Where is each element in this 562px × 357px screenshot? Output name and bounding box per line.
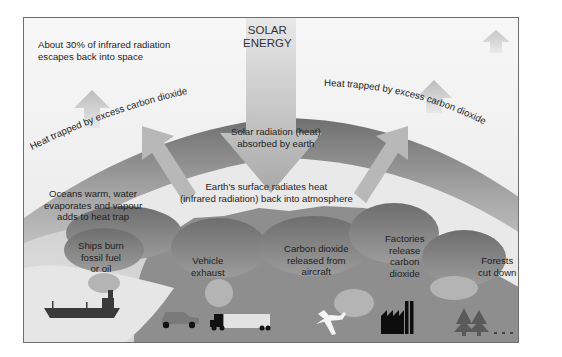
factories-line-4: dioxide <box>385 268 424 280</box>
oceans-label: Oceans warm, water evaporates and vapour… <box>44 188 142 223</box>
absorbed-label: Solar radiation (heat) absorbed by earth <box>231 126 321 149</box>
factories-line-2: release <box>385 245 424 257</box>
solar-title-line-1: SOLAR <box>243 24 292 37</box>
radiates-label: Earth's surface radiates heat (infrared … <box>180 181 353 204</box>
escape-note: About 30% of infrared radiation escapes … <box>38 39 170 62</box>
vehicles-line-2: exhaust <box>191 267 225 279</box>
solar-energy-title: SOLAR ENERGY <box>243 24 292 50</box>
forests-line-2: cut down <box>478 267 516 279</box>
aircraft-line-1: Carbon dioxide <box>284 243 349 255</box>
forests-line-1: Forests <box>478 255 516 267</box>
source-ships-label: Ships burn fossil fuel or oil <box>78 240 124 275</box>
source-factories-label: Factories release carbon dioxide <box>385 233 424 279</box>
escape-note-line-1: About 30% of infrared radiation <box>38 39 170 51</box>
ships-line-3: or oil <box>78 263 124 275</box>
oceans-line-3: adds to heat trap <box>44 211 142 223</box>
source-forests-label: Forests cut down <box>478 255 516 278</box>
ships-line-1: Ships burn <box>78 240 124 252</box>
solar-title-line-2: ENERGY <box>243 37 292 50</box>
aircraft-line-3: aircraft <box>284 266 349 278</box>
oceans-line-2: evaporates and vapour <box>44 200 142 212</box>
radiates-line-2: (infrared radiation) back into atmospher… <box>180 193 353 205</box>
radiates-line-1: Earth's surface radiates heat <box>180 181 353 193</box>
absorbed-line-1: Solar radiation (heat) <box>231 126 321 138</box>
aircraft-line-2: released from <box>284 255 349 267</box>
source-vehicles-label: Vehicle exhaust <box>191 255 225 278</box>
greenhouse-effect-diagram: Heat trapped by excess carbon dioxide He… <box>23 17 519 343</box>
source-aircraft-label: Carbon dioxide released from aircraft <box>284 243 349 278</box>
ships-line-2: fossil fuel <box>78 252 124 264</box>
vehicles-line-1: Vehicle <box>191 255 225 267</box>
absorbed-line-2: absorbed by earth <box>231 138 321 150</box>
escape-note-line-2: escapes back into space <box>38 51 170 63</box>
factories-line-1: Factories <box>385 233 424 245</box>
factories-line-3: carbon <box>385 256 424 268</box>
oceans-line-1: Oceans warm, water <box>44 188 142 200</box>
